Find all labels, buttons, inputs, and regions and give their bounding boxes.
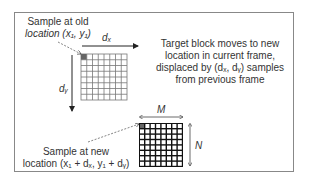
dx-label: dₓ — [102, 32, 111, 44]
old-label-line1: Sample at old — [22, 16, 94, 28]
n-label: N — [195, 140, 202, 152]
desc-line1: Target block moves to new — [150, 38, 290, 50]
old-sample-pointer — [58, 42, 81, 54]
description-text: Target block moves to new location in cu… — [150, 38, 290, 86]
dy-label: dᵧ — [59, 83, 68, 95]
old-label-line2: location (x₁, y₁) — [22, 28, 94, 40]
desc-line3: displaced by (dₓ, dᵧ) samples — [150, 62, 290, 74]
old-sample-label: Sample at old location (x₁, y₁) — [22, 16, 94, 40]
new-label-line1: Sample at new — [20, 146, 132, 158]
new-sample-pointer — [88, 124, 139, 142]
desc-line4: from previous frame — [150, 74, 290, 86]
m-label: M — [157, 104, 165, 116]
new-label-line2: location (x₁ + dₓ, y₁ + dᵧ) — [20, 158, 132, 170]
new-sample-label: Sample at new location (x₁ + dₓ, y₁ + dᵧ… — [20, 146, 132, 170]
old-block-grid — [81, 54, 127, 100]
desc-line2: location in current frame, — [150, 50, 290, 62]
